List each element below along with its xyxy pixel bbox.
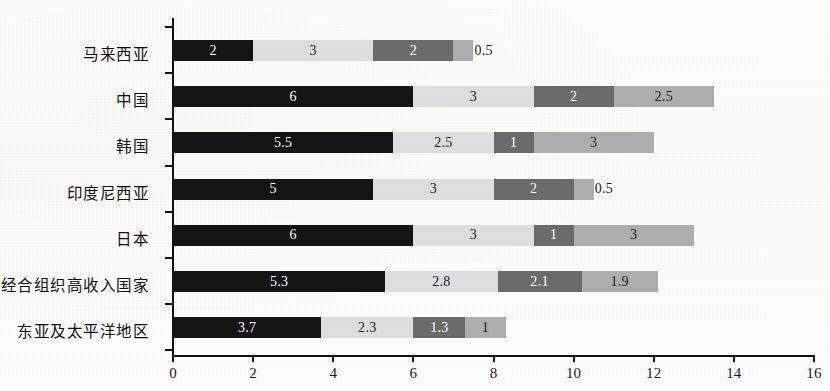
bar-value-label: 3 [310, 44, 317, 58]
bar-segment[interactable]: 2.1 [498, 271, 582, 292]
bar-value-label: 1 [482, 321, 489, 335]
bar-value-label: 5.5 [274, 136, 292, 150]
x-axis-tick [653, 355, 655, 362]
x-axis-tick-label: 10 [554, 365, 594, 382]
bar-value-label: 2 [530, 182, 537, 196]
x-axis-tick [332, 355, 334, 362]
y-axis-tick [165, 257, 173, 259]
y-axis-tick [165, 72, 173, 74]
y-axis-tick [165, 211, 173, 213]
bar-segment[interactable]: 2 [373, 40, 453, 61]
x-axis-tick [172, 355, 174, 362]
chart-figure: 0246810121416 马来西亚中国韩国印度尼西亚日本经合组织高收入国家东亚… [0, 0, 830, 391]
y-axis-tick [165, 165, 173, 167]
bar-row[interactable]: 6313 [173, 225, 694, 246]
category-label: 马来西亚 [0, 42, 149, 64]
bar-row[interactable]: 5.32.82.11.9 [173, 271, 658, 292]
x-axis-tick-label: 4 [313, 365, 353, 382]
bar-value-label: 3.7 [238, 321, 256, 335]
bar-value-label: 3 [590, 136, 597, 150]
bar-segment[interactable]: 2 [173, 40, 253, 61]
bar-segment[interactable]: 3 [413, 86, 533, 107]
x-axis-tick-label: 12 [634, 365, 674, 382]
bar-segment[interactable]: 1 [534, 225, 574, 246]
bar-value-label: 2.8 [432, 275, 450, 289]
bar-value-label: 3 [470, 228, 477, 242]
x-axis-tick [813, 355, 815, 362]
bar-value-label: 1.9 [610, 275, 628, 289]
bar-value-label: 2.5 [655, 90, 673, 104]
y-axis-tick [165, 349, 173, 351]
y-axis-tick [165, 303, 173, 305]
bar-value-label: 2.3 [358, 321, 376, 335]
bar-value-label: 2.1 [530, 275, 548, 289]
bar-segment[interactable]: 5.5 [173, 132, 393, 153]
bar-value-label: 2.5 [434, 136, 452, 150]
bar-segment[interactable]: 1 [494, 132, 534, 153]
bar-segment[interactable]: 0.5 [453, 40, 473, 61]
bar-value-label: 1 [510, 136, 517, 150]
category-label: 日本 [0, 227, 149, 249]
y-axis-tick [165, 26, 173, 28]
x-axis-tick [493, 355, 495, 362]
bar-row[interactable]: 6322.5 [173, 86, 714, 107]
bar-segment[interactable]: 1.9 [582, 271, 658, 292]
bar-segment[interactable]: 5 [173, 179, 373, 200]
bar-value-label: 6 [290, 228, 297, 242]
x-axis-tick-label: 0 [153, 365, 193, 382]
category-label: 东亚及太平洋地区 [0, 319, 149, 341]
bar-value-label: 0.5 [474, 44, 492, 58]
y-axis-tick [165, 118, 173, 120]
bar-segment[interactable]: 2.8 [385, 271, 497, 292]
x-axis-tick [733, 355, 735, 362]
bar-segment[interactable]: 3 [534, 132, 654, 153]
category-label: 印度尼西亚 [0, 181, 149, 203]
category-label: 经合组织高收入国家 [0, 273, 149, 295]
bar-row[interactable]: 5320.5 [173, 179, 594, 200]
x-axis-tick-label: 8 [474, 365, 514, 382]
bar-segment[interactable]: 1.3 [413, 317, 465, 338]
bar-value-label: 3 [630, 228, 637, 242]
bar-value-label: 5 [270, 182, 277, 196]
bar-value-label: 3 [430, 182, 437, 196]
x-axis-tick-label: 16 [794, 365, 830, 382]
bar-segment[interactable]: 2 [494, 179, 574, 200]
bar-segment[interactable]: 0.5 [574, 179, 594, 200]
bar-segment[interactable]: 3.7 [173, 317, 321, 338]
bar-segment[interactable]: 2.5 [393, 132, 493, 153]
plot-area: 0246810121416 马来西亚中国韩国印度尼西亚日本经合组织高收入国家东亚… [173, 18, 814, 358]
bar-segment[interactable]: 6 [173, 225, 413, 246]
bar-segment[interactable]: 2.3 [321, 317, 413, 338]
bar-value-label: 2 [209, 44, 216, 58]
bar-row[interactable]: 3.72.31.31 [173, 317, 506, 338]
bar-value-label: 2 [410, 44, 417, 58]
x-axis-tick [412, 355, 414, 362]
bar-value-label: 3 [470, 90, 477, 104]
bar-row[interactable]: 2320.5 [173, 40, 473, 61]
category-label: 韩国 [0, 134, 149, 156]
bar-segment[interactable]: 3 [253, 40, 373, 61]
bar-segment[interactable]: 5.3 [173, 271, 385, 292]
bar-segment[interactable]: 3 [373, 179, 493, 200]
x-axis-tick-label: 6 [393, 365, 433, 382]
x-axis-tick-label: 2 [233, 365, 273, 382]
category-label: 中国 [0, 88, 149, 110]
bar-segment[interactable]: 1 [465, 317, 505, 338]
bar-value-label: 5.3 [270, 275, 288, 289]
bar-value-label: 1 [550, 228, 557, 242]
bar-segment[interactable]: 6 [173, 86, 413, 107]
bar-segment[interactable]: 2.5 [614, 86, 714, 107]
bar-value-label: 2 [570, 90, 577, 104]
bar-value-label: 0.5 [595, 182, 613, 196]
bar-value-label: 6 [290, 90, 297, 104]
bar-segment[interactable]: 3 [413, 225, 533, 246]
x-axis-tick [252, 355, 254, 362]
bar-segment[interactable]: 2 [534, 86, 614, 107]
bar-segment[interactable]: 3 [574, 225, 694, 246]
bar-row[interactable]: 5.52.513 [173, 132, 654, 153]
x-axis-tick-label: 14 [714, 365, 754, 382]
bar-value-label: 1.3 [430, 321, 448, 335]
x-axis-tick [573, 355, 575, 362]
